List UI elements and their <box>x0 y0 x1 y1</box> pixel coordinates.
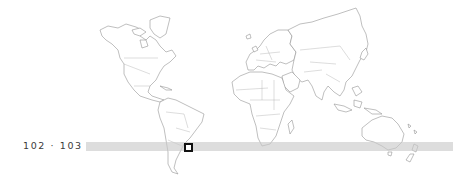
location-marker <box>184 143 193 152</box>
world-map-outline <box>0 0 471 182</box>
asia <box>288 8 368 100</box>
south-america <box>158 98 204 174</box>
greenland <box>150 16 170 38</box>
north-america <box>100 24 176 102</box>
page-number-label: 102 · 103 <box>23 140 83 151</box>
latitude-band <box>86 142 453 151</box>
world-map <box>0 0 471 182</box>
